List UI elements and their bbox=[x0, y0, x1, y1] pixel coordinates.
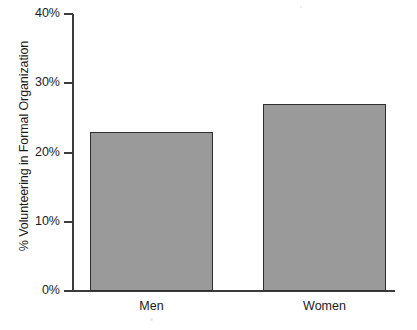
page-speck-icon bbox=[300, 6, 302, 8]
y-axis-tick-label: 20% bbox=[0, 146, 60, 158]
y-axis-tick bbox=[64, 82, 73, 84]
y-axis-tick-label: 10% bbox=[0, 215, 60, 227]
y-axis-tick-label: 40% bbox=[0, 7, 60, 19]
y-axis-tick-label: 0% bbox=[0, 284, 60, 296]
y-axis-tick-label-wrap: 20% bbox=[0, 146, 60, 158]
y-axis-tick bbox=[64, 290, 73, 292]
x-axis-label-men: Men bbox=[90, 298, 213, 314]
page-speck-icon bbox=[150, 318, 153, 321]
y-axis-tick-label-wrap: 40% bbox=[0, 7, 60, 19]
bar-men[interactable] bbox=[90, 132, 213, 291]
y-axis-tick bbox=[64, 13, 73, 15]
bar-chart: % Volunteering in Formal Organization 40… bbox=[0, 0, 417, 330]
y-axis-tick-label-wrap: 10% bbox=[0, 215, 60, 227]
y-axis-tick-label-wrap: 30% bbox=[0, 76, 60, 88]
y-axis-tick-label: 30% bbox=[0, 76, 60, 88]
x-axis-label-women: Women bbox=[263, 298, 386, 314]
bar-women[interactable] bbox=[263, 104, 386, 291]
y-axis-tick bbox=[64, 221, 73, 223]
y-axis-tick bbox=[64, 152, 73, 154]
y-axis-tick-label-wrap: 0% bbox=[0, 284, 60, 296]
